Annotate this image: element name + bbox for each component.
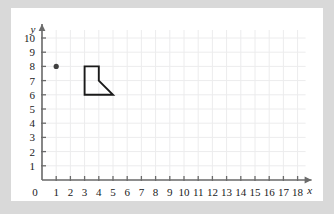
x-axis-tick-label: 10 [179, 186, 191, 198]
coordinate-plane-figure: 123456789101112131415161718 12345678910 … [0, 0, 334, 214]
plot-card: 123456789101112131415161718 12345678910 … [11, 8, 323, 201]
gridlines-horizontal [42, 38, 306, 180]
x-axis-tick-label: 14 [235, 186, 247, 198]
y-axis-tick-label: 5 [30, 103, 36, 115]
x-axis-tick-label: 17 [278, 186, 290, 198]
y-axis-tick-label: 6 [30, 89, 36, 101]
axis-lines [39, 24, 312, 183]
x-axis-tick-label: 7 [139, 186, 145, 198]
x-axis-tick-label: 5 [110, 186, 116, 198]
x-axis-tick-label: 15 [250, 186, 262, 198]
x-axis-tick-label: 3 [82, 186, 88, 198]
y-axis-arrowhead [39, 24, 46, 31]
y-axis-tick-label: 1 [30, 160, 36, 172]
x-axis-tick-label: 9 [167, 186, 173, 198]
x-axis-tick-label: 4 [96, 186, 102, 198]
origin-label: 0 [32, 186, 38, 198]
x-axis-tick-label: 18 [292, 186, 304, 198]
data-point-markers [54, 64, 59, 69]
x-axis-tick-label: 13 [221, 186, 233, 198]
x-axis-tick-label: 16 [264, 186, 276, 198]
y-axis-name-label: y [30, 23, 36, 35]
y-axis-tick-label: 7 [30, 75, 36, 87]
scatter-point-marker [54, 64, 59, 69]
x-axis-tick-label: 8 [153, 186, 159, 198]
y-axis-tick-label: 3 [30, 131, 36, 143]
x-axis-tick-label: 2 [68, 186, 74, 198]
x-axis-tick-label: 11 [193, 186, 204, 198]
coordinate-grid-svg: 123456789101112131415161718 12345678910 … [11, 8, 323, 201]
origin-zero-label: 0 [32, 186, 38, 198]
y-axis-tick-label: 8 [30, 60, 36, 72]
x-axis-tick-label: 6 [124, 186, 130, 198]
x-axis-name-label: x [306, 184, 312, 196]
x-axis-tick-label: 12 [207, 186, 218, 198]
x-axis-tick-labels: 123456789101112131415161718 [53, 186, 303, 198]
x-axis-arrowhead [305, 177, 312, 184]
y-axis-tick-label: 4 [30, 117, 36, 129]
y-axis-tick-labels: 12345678910 [24, 32, 36, 172]
x-axis-tick-label: 1 [53, 186, 59, 198]
y-axis-tick-label: 2 [30, 146, 36, 158]
y-axis-tick-label: 9 [30, 46, 36, 58]
